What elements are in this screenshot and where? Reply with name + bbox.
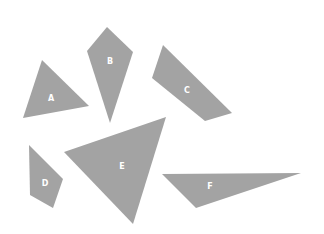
shape-e: [64, 117, 166, 224]
shape-b: [87, 27, 133, 123]
shapes-svg: [0, 0, 324, 234]
shape-b-label: B: [107, 58, 113, 66]
shape-f: [162, 173, 301, 208]
shape-e-label: E: [119, 163, 124, 171]
shape-f-label: F: [207, 183, 212, 191]
shapes-diagram: A B C D E F: [0, 0, 324, 234]
shape-c-label: C: [184, 87, 190, 95]
shape-c: [152, 45, 232, 121]
shape-a: [23, 60, 89, 118]
shape-a-label: A: [48, 95, 54, 103]
shape-d: [29, 145, 63, 208]
shape-d-label: D: [42, 180, 49, 188]
